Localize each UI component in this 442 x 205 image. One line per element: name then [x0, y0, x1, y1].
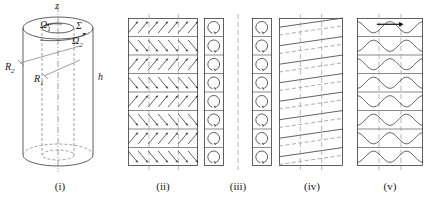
vortex-arc — [208, 58, 220, 70]
panel-cylinder-geometry: z Ω1 Σ Ω2 R2 R1 h — [0, 0, 120, 180]
wavy-band-sine-curve — [357, 151, 423, 162]
tilted-band-solid-line — [279, 74, 343, 83]
radius-2-leader-line — [20, 46, 80, 63]
height-label-h: h — [98, 72, 103, 82]
tilted-band-dashed-line — [279, 137, 343, 146]
flow-arrow — [168, 59, 178, 70]
vortex-arc — [256, 151, 268, 163]
flow-arrow — [148, 151, 158, 162]
wavy-band-sine-curve — [357, 22, 423, 33]
flow-arrow — [128, 114, 138, 125]
vortex-arc — [256, 40, 268, 52]
panel-tilted-bands — [279, 18, 343, 166]
flow-arrow — [148, 96, 158, 107]
tilted-band-dashed-line — [279, 100, 343, 109]
flow-arrow — [138, 59, 148, 70]
wavy-band-sine-curve — [357, 40, 423, 51]
flow-arrow — [128, 77, 138, 88]
cylinder-svg — [0, 0, 120, 180]
tilted-band-solid-line — [279, 37, 343, 46]
flow-arrow — [128, 151, 138, 162]
flow-arrow — [148, 133, 158, 144]
tilted-band-solid-line — [279, 111, 343, 120]
flow-arrow — [128, 96, 138, 107]
flow-arrow — [168, 114, 178, 125]
flow-arrow — [148, 59, 158, 70]
vortex-arc — [208, 40, 220, 52]
vortex-arrowhead — [214, 31, 216, 34]
flow-arrow — [128, 22, 138, 33]
radius-2-label: R2 — [5, 62, 15, 75]
flow-arrow — [188, 114, 198, 125]
flow-arrow — [138, 114, 148, 125]
vortex-arc — [208, 151, 220, 163]
flow-arrow — [188, 96, 198, 107]
vortex-arrowhead — [262, 31, 264, 34]
vortex-circular-arrow-icon — [208, 114, 220, 127]
flow-arrow — [188, 151, 198, 162]
flow-arrow — [148, 40, 158, 51]
flow-arrow — [168, 77, 178, 88]
vortex-arc — [256, 95, 268, 107]
vortex-circular-arrow-icon — [256, 132, 268, 145]
radius-1-leader-line — [44, 60, 80, 76]
vortex-circular-arrow-icon — [256, 114, 268, 127]
flow-arrow — [178, 96, 188, 107]
sigma-label: Σ — [76, 21, 82, 31]
vortex-arrowhead — [262, 50, 264, 53]
omega-2-label: Ω2 — [72, 36, 83, 49]
flow-arrow — [148, 114, 158, 125]
flow-arrow — [178, 133, 188, 144]
vortex-arrowhead — [214, 50, 216, 53]
vortex-arrowhead — [214, 142, 216, 145]
flow-arrow — [158, 77, 168, 88]
vortex-arc — [256, 132, 268, 144]
wavy-band-sine-curve — [357, 114, 423, 125]
vortex-circular-arrow-icon — [256, 40, 268, 53]
caption-panel-v: (v) — [370, 180, 410, 192]
tilted-band-dashed-line — [279, 44, 343, 53]
wavy-band-sine-curve — [357, 77, 423, 88]
flow-arrow — [168, 40, 178, 51]
tilted-band-solid-line — [279, 148, 343, 157]
tilted-bands-border — [280, 19, 343, 166]
omega-1-label: Ω1 — [40, 20, 51, 33]
flow-arrow — [128, 133, 138, 144]
flow-arrow — [158, 40, 168, 51]
tilted-band-solid-line — [279, 129, 343, 138]
flow-arrow — [138, 77, 148, 88]
vortex-arc — [208, 77, 220, 89]
arrow-grid-svg — [128, 18, 198, 166]
vortex-arrowhead — [262, 142, 264, 145]
vortex-arrowhead — [262, 87, 264, 90]
flow-arrow — [128, 59, 138, 70]
vortex-arrowhead — [262, 124, 264, 127]
flow-arrow — [148, 22, 158, 33]
vortex-circular-arrow-icon — [208, 132, 220, 145]
flow-arrow — [188, 59, 198, 70]
radius-1-label: R1 — [34, 74, 44, 87]
flow-arrow — [158, 114, 168, 125]
flow-arrow — [168, 151, 178, 162]
tilted-bands-svg — [279, 18, 343, 166]
wavy-band-sine-curve — [357, 59, 423, 70]
vortex-circular-arrow-icon — [208, 95, 220, 108]
axis-label-z: z — [55, 1, 59, 11]
vortex-arc — [256, 77, 268, 89]
flow-arrow — [148, 77, 158, 88]
vortex-arrowhead — [214, 161, 216, 164]
flow-arrow — [158, 59, 168, 70]
vortex-arrowhead — [214, 87, 216, 90]
flow-arrow — [158, 133, 168, 144]
vortex-arrowhead — [262, 161, 264, 164]
panel-wavy-bands — [357, 18, 423, 166]
vortex-arc — [208, 21, 220, 33]
vortex-circular-arrow-icon — [208, 151, 220, 164]
flow-arrow — [138, 22, 148, 33]
flow-arrow — [178, 151, 188, 162]
caption-panel-iii: (iii) — [218, 180, 258, 192]
vortex-arrowhead — [214, 105, 216, 108]
vortex-arrowhead — [214, 68, 216, 71]
flow-arrow — [138, 96, 148, 107]
vortex-circular-arrow-icon — [208, 21, 220, 34]
